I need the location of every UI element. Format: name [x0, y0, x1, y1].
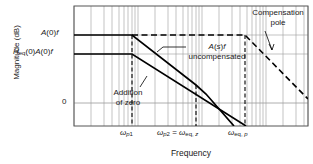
- leader-addition-of-zero: [140, 76, 147, 87]
- y-tick-label-heq0a0f: Heq(0)A(0)f: [13, 47, 53, 56]
- annotation-addition-of-zero: Addition of zero: [101, 88, 155, 107]
- annotation-compensation-pole: Compensation pole: [243, 8, 313, 27]
- annotation-addition-of-zero-line2: of zero: [101, 98, 155, 108]
- annotation-addition-of-zero-line1: Addition: [101, 88, 155, 98]
- annotation-uncompensated: A(s)f uncompensated: [186, 42, 248, 61]
- annotation-compensation-pole-line1: Compensation: [243, 8, 313, 18]
- x-tick-label-omega-p2-eq-z: ωp2 = ωeq, z: [157, 128, 198, 137]
- annotation-compensation-pole-line2: pole: [243, 18, 313, 28]
- leader-compensation-pole-head: [269, 44, 274, 50]
- annotation-uncompensated-line1: A(s)f: [186, 42, 248, 52]
- x-axis-title: Frequency: [74, 148, 308, 158]
- bode-plot-figure: Magnitude (dB) A(0)f Heq(0)A(0)f 0 ωp1 ω…: [0, 0, 313, 164]
- curve-addition-of-zero: [74, 54, 246, 126]
- annotation-uncompensated-line2: uncompensated: [186, 52, 248, 62]
- x-tick-label-omega-eq-p: ωeq, p: [228, 128, 248, 137]
- x-tick-label-omega-p1: ωp1: [120, 128, 133, 137]
- y-tick-label-a0f: A(0)f: [41, 28, 58, 37]
- leader-uncompensated-tick: [157, 47, 163, 52]
- y-tick-label-zero: 0: [62, 97, 66, 106]
